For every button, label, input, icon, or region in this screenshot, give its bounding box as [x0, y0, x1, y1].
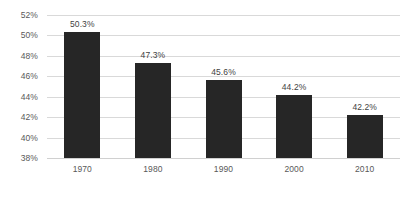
- bar-group[interactable]: 44.2%: [276, 15, 312, 158]
- bar-group[interactable]: 45.6%: [206, 15, 242, 158]
- bar[interactable]: [135, 63, 171, 158]
- y-axis-tick-label: 48%: [4, 51, 38, 61]
- bar[interactable]: [206, 80, 242, 158]
- bar-value-label: 44.2%: [282, 82, 307, 92]
- x-axis-tick-label: 2010: [335, 164, 395, 174]
- bar-group[interactable]: 47.3%: [135, 15, 171, 158]
- bar-value-label: 50.3%: [70, 19, 95, 29]
- y-axis-tick-label: 38%: [4, 153, 38, 163]
- y-axis-tick-label: 52%: [4, 10, 38, 20]
- bar-value-label: 47.3%: [141, 50, 166, 60]
- bar-group[interactable]: 50.3%: [64, 15, 100, 158]
- y-axis-tick-label: 44%: [4, 92, 38, 102]
- bar-value-label: 42.2%: [352, 102, 377, 112]
- y-axis-tick-label: 46%: [4, 71, 38, 81]
- bar-value-label: 45.6%: [211, 67, 236, 77]
- gridline: [47, 158, 400, 159]
- bar[interactable]: [64, 32, 100, 158]
- bar[interactable]: [347, 115, 383, 158]
- y-axis-tick-label: 40%: [4, 133, 38, 143]
- bar-chart: 50.3%47.3%45.6%44.2%42.2% 52%50%48%46%44…: [0, 0, 416, 197]
- x-axis-tick-label: 2000: [264, 164, 324, 174]
- bars-layer: 50.3%47.3%45.6%44.2%42.2%: [47, 15, 400, 158]
- x-axis-tick-label: 1970: [52, 164, 112, 174]
- y-axis-tick-label: 50%: [4, 30, 38, 40]
- bar-group[interactable]: 42.2%: [347, 15, 383, 158]
- plot-area: 50.3%47.3%45.6%44.2%42.2%: [47, 15, 400, 158]
- x-axis-tick-label: 1980: [123, 164, 183, 174]
- y-axis-tick-label: 42%: [4, 112, 38, 122]
- bar[interactable]: [276, 95, 312, 158]
- x-axis-tick-label: 1990: [194, 164, 254, 174]
